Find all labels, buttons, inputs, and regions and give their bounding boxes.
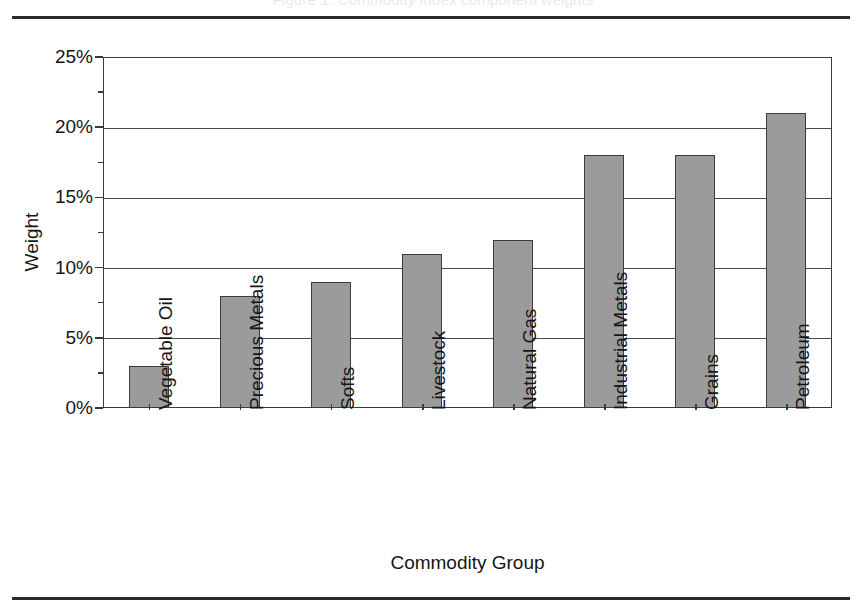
- x-axis-category-label-text: Industrial Metals: [611, 272, 630, 410]
- y-axis-tick: [95, 197, 103, 199]
- y-axis-tick: [95, 126, 103, 128]
- x-axis-category-label-text: Grains: [702, 354, 721, 410]
- y-axis-tick-label: 20%: [14, 117, 93, 136]
- x-axis-category-label: Livestock: [402, 410, 442, 546]
- x-axis-category-label-text: Petroleum: [793, 323, 812, 410]
- y-axis-tick-label: 25%: [14, 47, 93, 66]
- x-axis-category-label-text: Precious Metals: [247, 275, 266, 410]
- y-axis-tick: [95, 407, 103, 409]
- x-axis-category-label: Vegetable Oil: [129, 410, 169, 546]
- y-axis-tick-label: 0%: [14, 398, 93, 417]
- x-axis-category-label: Precious Metals: [220, 410, 260, 546]
- x-axis-category-label: Softs: [311, 410, 351, 546]
- x-axis-tick: [786, 404, 788, 410]
- y-axis-tick: [95, 56, 103, 58]
- x-axis-category-label: Industrial Metals: [584, 410, 624, 546]
- y-axis-tick: [95, 267, 103, 269]
- x-axis-category-labels: Vegetable OilPrecious MetalsSoftsLivesto…: [103, 410, 832, 550]
- x-axis-category-label-text: Softs: [338, 367, 357, 410]
- x-axis-tick: [422, 404, 424, 410]
- x-axis-category-label-text: Livestock: [429, 331, 448, 410]
- x-axis-tick: [240, 404, 242, 410]
- y-axis-tick-label: 5%: [14, 328, 93, 347]
- y-axis-title-label: Weight: [21, 212, 43, 272]
- x-axis-tick: [331, 404, 333, 410]
- x-axis-tick: [604, 404, 606, 410]
- x-axis-category-label: Natural Gas: [493, 410, 533, 546]
- bars-group: [103, 57, 832, 408]
- y-axis-title: Weight: [12, 196, 52, 286]
- x-axis-tick: [695, 404, 697, 410]
- x-axis-tick: [513, 404, 515, 410]
- x-axis-category-label-text: Vegetable Oil: [156, 297, 175, 410]
- bar-chart: 0%5%10%15%20%25% Weight Vegetable OilPre…: [0, 0, 866, 611]
- x-axis-category-label-text: Natural Gas: [520, 309, 539, 410]
- x-axis-tick: [149, 404, 151, 410]
- x-axis-title: Commodity Group: [103, 552, 832, 574]
- y-axis-tick: [95, 337, 103, 339]
- x-axis-category-label: Petroleum: [766, 410, 806, 546]
- x-axis-category-label: Grains: [675, 410, 715, 546]
